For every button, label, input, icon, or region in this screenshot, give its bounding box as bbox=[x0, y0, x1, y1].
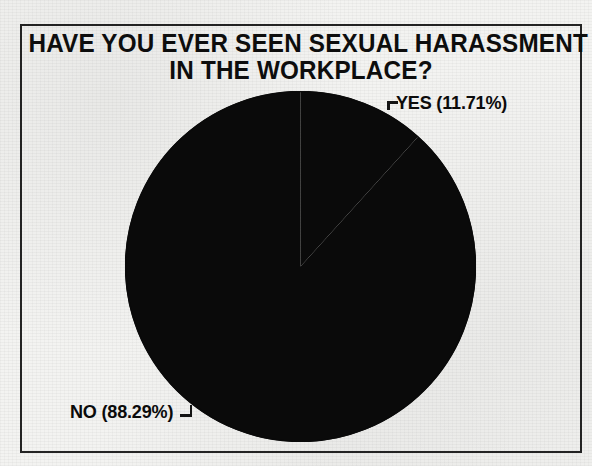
pie-label-yes: YES (11.71%) bbox=[396, 93, 507, 113]
chart-title-line-1: HAVE YOU EVER SEEN SEXUAL HARASSMENT bbox=[28, 30, 573, 57]
chart-title: HAVE YOU EVER SEEN SEXUAL HARASSMENT IN … bbox=[28, 30, 573, 84]
pie-label-no: NO (88.29%) bbox=[70, 402, 173, 422]
yes-leader-line-vertical bbox=[387, 101, 390, 110]
pie-chart bbox=[125, 91, 476, 442]
pie-chart-svg bbox=[125, 91, 476, 442]
chart-page: HAVE YOU EVER SEEN SEXUAL HARASSMENT IN … bbox=[0, 0, 592, 466]
chart-title-line-2: IN THE WORKPLACE? bbox=[28, 57, 573, 84]
no-leader-line-vertical bbox=[190, 405, 193, 416]
